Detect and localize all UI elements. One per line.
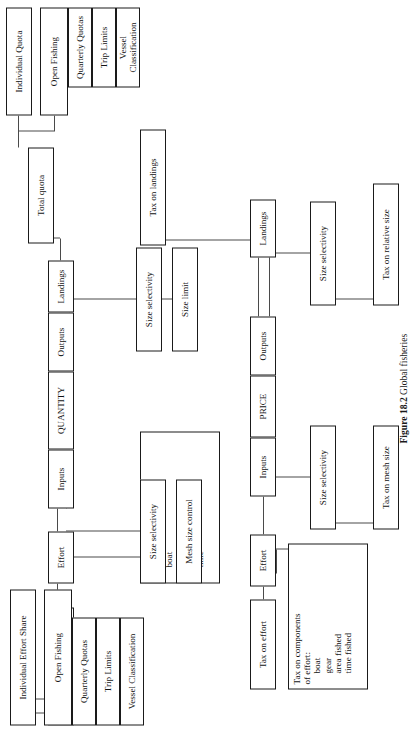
box-open-fishing-effort-2: Open Fishing — [44, 589, 72, 725]
label-mesh-size-control: Mesh size control — [184, 499, 194, 564]
connector-quota-openfishing-v — [18, 130, 54, 131]
connector-price-effort-comp-v — [276, 548, 288, 549]
box-open-fishing-quota: Open Fishing — [40, 7, 68, 115]
label-individual-effort-share: Individual Effort Share — [18, 615, 28, 699]
box-qty-sizesel-in: Size selectivity — [140, 479, 166, 583]
label-price-inputs-2: Inputs — [258, 455, 268, 478]
connector-price-effort-inputs — [263, 496, 264, 534]
label-qty-sizesel-out: Size selectivity — [144, 271, 154, 326]
label-price-root-2: PRICE — [258, 393, 268, 419]
label-open-fishing-effort-2: Open Fishing — [53, 632, 63, 681]
box-qty-root-2: QUANTITY — [48, 371, 74, 449]
box-tax-components-2: Tax on components of effort: boat gear a… — [288, 543, 368, 689]
box-individual-quota: Individual Quota — [6, 7, 32, 115]
box-tax-landings-2: Tax on landings — [140, 129, 166, 245]
connector-price-sizesel-mesh-v — [336, 522, 373, 523]
box-tax-mesh-size-2: Tax on mesh size — [373, 425, 399, 529]
label-price-landings-2: Landings — [258, 211, 268, 245]
label-price-effort-2: Effort — [258, 549, 268, 571]
box-price-outputs-2: Outputs — [250, 316, 276, 375]
figure-caption-2: Figure 18.2 Global fisheries — [398, 333, 409, 443]
box-tax-on-effort-2: Tax on effort — [250, 599, 276, 689]
figure-canvas-main: Inputs PRICE Outputs Effort Landings Siz… — [0, 0, 416, 743]
label-tax-on-effort-2: Tax on effort — [258, 620, 268, 667]
connector-qty-outputs-sizesel-v — [69, 298, 136, 299]
connector-price-outputs-sizesel-h — [269, 253, 270, 316]
connector-price-outputs-landings — [258, 257, 259, 316]
label-quarterly-quotas-quota: Quarterly Quotas — [75, 16, 85, 79]
label-price-sizesel-in-2: Size selectivity — [318, 449, 328, 504]
box-price-sizesel-in-2: Size selectivity — [310, 425, 336, 529]
connector-price-sizesel-relsize-v — [336, 298, 373, 299]
label-qty-inputs-2: Inputs — [56, 467, 66, 490]
box-size-limit: Size limit — [172, 247, 198, 351]
box-individual-effort-share-visible: Individual Effort Share — [10, 589, 36, 725]
box-vessel-classification-effort: Vessel Classification — [120, 617, 144, 725]
label-vessel-classification-effort: Vessel Classification — [127, 633, 137, 709]
label-price-sizesel-out-2: Size selectivity — [318, 225, 328, 280]
connector-price-landings-tax-v — [166, 239, 250, 240]
box-price-landings-2: Landings — [250, 199, 276, 257]
box-tax-relative-size-2: Tax on relative size — [373, 183, 399, 305]
box-quarterly-quotas-effort: Quarterly Quotas — [72, 617, 96, 725]
label-individual-quota: Individual Quota — [14, 30, 24, 92]
label-tax-mesh-size-2: Tax on mesh size — [381, 446, 391, 509]
box-qty-sizesel-out: Size selectivity — [136, 247, 162, 351]
box-price-inputs-2: Inputs — [250, 437, 276, 496]
label-qty-effort-2: Effort — [56, 546, 66, 568]
box-price-effort-2: Effort — [250, 534, 276, 586]
label-qty-landings-2: Landings — [56, 269, 66, 303]
connector-qty-effort-restrictions-v — [74, 556, 140, 557]
box-trip-limits-effort: Trip Limits — [96, 617, 120, 725]
label-tax-relative-size-2: Tax on relative size — [381, 209, 391, 280]
box-qty-landings-2: Landings — [48, 260, 74, 312]
label-qty-sizesel-in: Size selectivity — [148, 503, 158, 558]
connector-qty-effort-inputs — [57, 508, 58, 531]
connector-qty-inputs-sizesel-v — [66, 530, 140, 531]
label-qty-root-2: QUANTITY — [56, 387, 66, 434]
box-mesh-size-control: Mesh size control — [176, 479, 202, 583]
label-price-outputs-2: Outputs — [258, 331, 268, 360]
box-qty-outputs-2: Outputs — [48, 312, 74, 371]
box-vessel-classification-quota: Vessel Classification — [116, 7, 140, 87]
connector-qty-sizesel-sizelimit — [162, 298, 172, 299]
label-size-limit: Size limit — [180, 281, 190, 316]
connector-price-effort-taxeffort-h — [263, 586, 264, 599]
label-tax-components-title-2: Tax on components of effort: — [292, 613, 312, 684]
box-total-quota-2: Total quota — [28, 147, 54, 243]
connector-qty-landings-quota-h — [60, 238, 61, 260]
connector-quota-openfishing-h — [54, 115, 55, 131]
label-trip-limits-effort: Trip Limits — [103, 650, 113, 691]
label-qty-outputs-2: Outputs — [56, 327, 66, 356]
connector-price-effort-comp-h — [276, 549, 277, 573]
label-total-quota-2: Total quota — [36, 174, 46, 215]
figure-number-2: Figure 18.2 — [398, 397, 409, 443]
label-trip-limits-quota: Trip Limits — [99, 26, 109, 67]
figure-title-2: Global fisheries — [398, 333, 409, 394]
label-tax-landings-2: Tax on landings — [148, 158, 158, 216]
box-price-root-2: PRICE — [250, 375, 276, 437]
label-tax-components-list-2: boat gear area fished time fished — [312, 613, 353, 684]
box-price-sizesel-out-2: Size selectivity — [310, 201, 336, 305]
box-quarterly-quotas-quota: Quarterly Quotas — [68, 7, 92, 87]
box-qty-effort-2: Effort — [48, 531, 74, 583]
box-trip-limits-quota: Trip Limits — [92, 7, 116, 87]
label-vessel-classification-quota: Vessel Classification — [118, 10, 138, 84]
box-qty-inputs-2: Inputs — [48, 449, 74, 508]
label-quarterly-quotas-effort: Quarterly Quotas — [79, 640, 89, 703]
label-open-fishing-quota: Open Fishing — [49, 36, 59, 85]
connector-price-inputs-sizesel-v — [276, 476, 310, 477]
